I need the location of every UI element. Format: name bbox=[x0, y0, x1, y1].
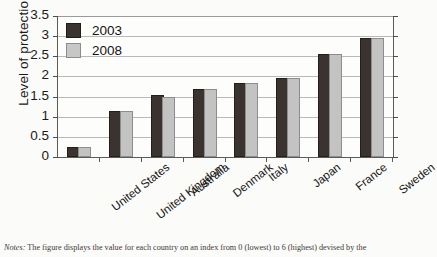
x-axis-labels: United StatesUnited KingdomAustraliaDenm… bbox=[57, 160, 392, 222]
legend-label-2008: 2008 bbox=[92, 43, 122, 58]
y-axis-tick-label: 3.5 bbox=[7, 7, 49, 22]
x-axis-tick bbox=[392, 157, 393, 162]
y-axis-tick bbox=[393, 117, 398, 118]
y-axis-tick-label: 2.5 bbox=[7, 47, 49, 62]
chart-legend: 2003 2008 bbox=[66, 20, 150, 60]
legend-item-2003: 2003 bbox=[66, 20, 150, 40]
bar-2008 bbox=[162, 97, 175, 157]
bar-2008 bbox=[120, 111, 133, 157]
x-axis-label: Denmark bbox=[230, 160, 275, 199]
bar-group bbox=[234, 16, 256, 157]
bar-group bbox=[318, 16, 340, 157]
bar-2008 bbox=[245, 83, 258, 158]
y-axis-tick bbox=[393, 97, 398, 98]
legend-swatch-2008 bbox=[66, 43, 81, 58]
bar-group bbox=[360, 16, 382, 157]
y-axis-tick-label: 0 bbox=[7, 148, 49, 163]
bar-group bbox=[276, 16, 298, 157]
x-axis-label: Japan bbox=[310, 160, 343, 190]
bar-2008 bbox=[78, 147, 91, 157]
y-axis-tick-label: 2 bbox=[7, 67, 49, 82]
bar-2008 bbox=[204, 89, 217, 157]
y-axis-tick bbox=[393, 137, 398, 138]
y-axis-tick bbox=[393, 157, 398, 158]
y-axis-tick-label: 1 bbox=[7, 108, 49, 123]
bar-2008 bbox=[329, 54, 342, 157]
y-axis-tick bbox=[393, 16, 398, 17]
bar-group bbox=[151, 16, 173, 157]
notes-prefix: Notes: bbox=[4, 243, 25, 252]
bar-2008 bbox=[371, 38, 384, 157]
y-axis-tick-label: 0.5 bbox=[7, 128, 49, 143]
notes-text: The figure displays the value for each c… bbox=[27, 243, 366, 252]
y-axis-tick bbox=[393, 76, 398, 77]
figure-notes: Notes: The figure displays the value for… bbox=[4, 243, 420, 252]
legend-swatch-2003 bbox=[66, 23, 81, 38]
legend-label-2003: 2003 bbox=[92, 23, 122, 38]
legend-item-2008: 2008 bbox=[66, 40, 150, 60]
y-axis-tick bbox=[393, 36, 398, 37]
x-axis-label: France bbox=[353, 160, 389, 192]
y-axis-tick-label: 3 bbox=[7, 27, 49, 42]
bar-group bbox=[193, 16, 215, 157]
x-axis-label: Sweden bbox=[396, 160, 437, 196]
bar-2008 bbox=[287, 78, 300, 157]
y-axis-tick-label: 1.5 bbox=[7, 88, 49, 103]
y-axis-tick bbox=[393, 56, 398, 57]
